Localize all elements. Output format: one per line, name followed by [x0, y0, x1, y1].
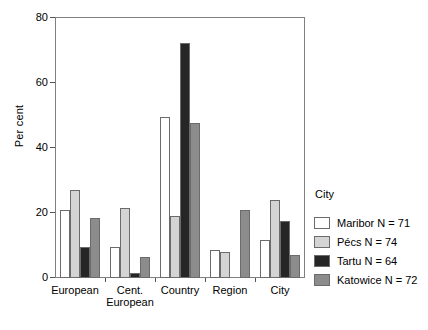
bar: [170, 216, 180, 278]
bar: [60, 210, 70, 279]
legend-swatch: [314, 255, 330, 267]
legend-title: City: [314, 188, 417, 200]
legend-item-label: Tartu N = 64: [337, 255, 397, 267]
bar: [110, 247, 120, 278]
x-tick-mark-3: [205, 278, 206, 282]
legend-item-label: Pécs N = 74: [337, 236, 397, 248]
bar: [260, 240, 270, 278]
y-axis-title: Per cent: [13, 81, 25, 171]
x-category-cent-european-line2: European: [95, 296, 165, 308]
legend-item: Maribor N = 71: [314, 214, 417, 231]
x-category-region-line1: Region: [213, 284, 248, 296]
x-category-country-line1: Country: [161, 284, 200, 296]
y-tick-label-40: 40: [22, 142, 48, 153]
bar: [70, 190, 80, 278]
legend-swatch: [314, 236, 330, 248]
bar: [140, 257, 150, 278]
x-category-cent-european-line1: Cent.: [117, 284, 143, 296]
bar: [160, 117, 170, 278]
y-tick-label-0: 0: [22, 272, 48, 283]
plot-area: [55, 17, 305, 278]
legend: City Maribor N = 71Pécs N = 74Tartu N = …: [314, 188, 417, 290]
legend-items: Maribor N = 71Pécs N = 74Tartu N = 64Kat…: [314, 214, 417, 288]
bar: [90, 218, 100, 278]
y-tick-label-80: 80: [22, 12, 48, 23]
x-category-city-line1: City: [271, 284, 290, 296]
legend-swatch: [314, 274, 330, 286]
legend-swatch: [314, 217, 330, 229]
y-tick-label-20: 20: [22, 207, 48, 218]
bar: [240, 210, 250, 279]
bar: [220, 252, 230, 278]
legend-item: Katowice N = 72: [314, 271, 417, 288]
bar: [120, 208, 130, 278]
x-category-label-city: City: [245, 284, 315, 296]
bar: [130, 273, 140, 278]
legend-item: Tartu N = 64: [314, 252, 417, 269]
bar: [180, 43, 190, 278]
x-tick-mark-1: [105, 278, 106, 282]
bar-chart: Per cent 80 60 40 20 0 European Cent. Eu…: [0, 0, 428, 330]
bar: [270, 200, 280, 278]
y-tick-label-60: 60: [22, 77, 48, 88]
bar: [80, 247, 90, 278]
legend-item: Pécs N = 74: [314, 233, 417, 250]
bar: [290, 255, 300, 278]
x-category-european-line1: European: [51, 284, 99, 296]
x-tick-mark-4: [255, 278, 256, 282]
bar: [210, 250, 220, 278]
x-tick-mark-2: [155, 278, 156, 282]
legend-item-label: Katowice N = 72: [337, 274, 417, 286]
bar: [190, 123, 200, 278]
legend-item-label: Maribor N = 71: [337, 217, 410, 229]
bar: [280, 221, 290, 278]
